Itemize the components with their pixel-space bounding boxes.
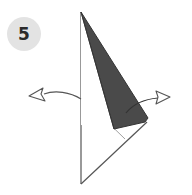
bottom-diagonal-edge: [81, 122, 147, 184]
origami-diagram: [0, 0, 192, 195]
left-arrow-icon: [29, 88, 81, 101]
